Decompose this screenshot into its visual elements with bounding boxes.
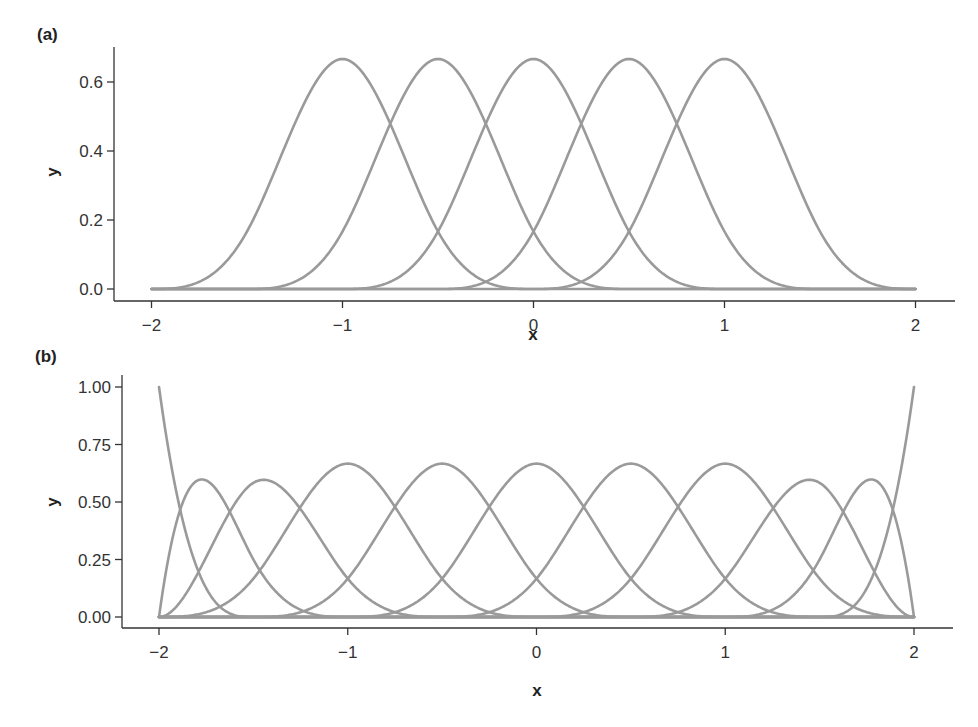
y-tick-label: 0.25	[78, 551, 111, 570]
basis-curve-b7	[159, 464, 914, 617]
x-tick-label: −1	[333, 316, 352, 335]
x-tick-label: −2	[149, 643, 168, 662]
panel-label-b: (b)	[35, 347, 57, 366]
figure: (a) 0.00.20.40.6 −2−1012 x y (b) 0.000.2…	[0, 0, 978, 727]
curves-a	[152, 59, 916, 289]
basis-curve-b4	[152, 59, 916, 289]
panel-a: (a) 0.00.20.40.6 −2−1012 x y	[37, 25, 955, 344]
basis-curve-b1	[152, 59, 916, 289]
x-ticks-b: −2−1012	[149, 628, 918, 662]
panel-b: (b) 0.000.250.500.751.00 −2−1012 x y	[35, 347, 953, 700]
x-tick-label: 2	[909, 643, 918, 662]
y-axis-title-a: y	[43, 167, 62, 177]
x-axis-title-a: x	[528, 325, 538, 344]
basis-curve-b1	[159, 387, 914, 617]
basis-curve-b10	[159, 479, 914, 617]
panel-label-a: (a)	[37, 25, 58, 44]
y-tick-label: 0.75	[78, 436, 111, 455]
y-ticks-b: 0.000.250.500.751.00	[78, 378, 122, 627]
y-tick-label: 0.2	[79, 211, 103, 230]
x-axis-title-b: x	[532, 681, 542, 700]
basis-curve-b5	[152, 59, 916, 289]
y-tick-label: 0.6	[79, 73, 103, 92]
x-tick-label: 1	[720, 316, 729, 335]
basis-curve-b2	[159, 479, 914, 617]
x-tick-label: 0	[532, 643, 541, 662]
basis-curve-b6	[159, 464, 914, 617]
basis-curve-b4	[159, 464, 914, 617]
y-ticks-a: 0.00.20.40.6	[79, 73, 114, 299]
y-axis-title-b: y	[43, 497, 62, 507]
x-tick-label: 2	[911, 316, 920, 335]
y-tick-label: 0.00	[78, 608, 111, 627]
basis-curve-b8	[159, 464, 914, 617]
y-tick-label: 1.00	[78, 378, 111, 397]
basis-curve-b2	[152, 59, 916, 289]
basis-curve-b3	[152, 59, 916, 289]
basis-curve-b5	[159, 464, 914, 617]
x-tick-label: −2	[142, 316, 161, 335]
x-tick-label: −1	[338, 643, 357, 662]
basis-curve-b11	[159, 387, 914, 617]
curves-b	[159, 387, 914, 617]
y-tick-label: 0.0	[79, 280, 103, 299]
y-tick-label: 0.4	[79, 142, 103, 161]
basis-curve-b9	[159, 480, 914, 617]
x-tick-label: 1	[721, 643, 730, 662]
basis-curve-b3	[159, 480, 914, 617]
y-tick-label: 0.50	[78, 493, 111, 512]
